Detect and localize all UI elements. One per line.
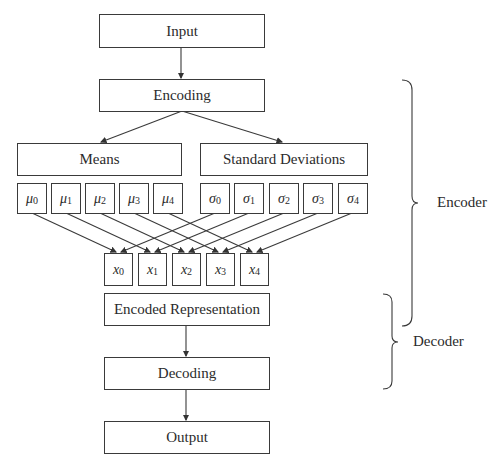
arrow-encoding-std: [182, 111, 282, 142]
arrow-mu0-x0: [32, 213, 116, 252]
std-devs-box: Standard Deviations: [200, 143, 368, 176]
arrow-mu2-x2: [100, 213, 184, 252]
arrow-encoding-means: [101, 111, 182, 142]
sigma-2-box: σ2: [269, 183, 299, 214]
means-label: Means: [80, 151, 120, 168]
x-1-box: x1: [138, 253, 167, 286]
sigma-3-box: σ3: [303, 183, 333, 214]
mu-0-box: μ0: [17, 183, 47, 214]
encoded-representation-box: Encoded Representation: [104, 293, 270, 326]
sigma-4-box: σ4: [338, 183, 368, 214]
decoder-group-label: Decoder: [413, 333, 464, 350]
output-box: Output: [104, 421, 270, 454]
arrow-mu3-x3: [134, 213, 218, 252]
mu-3-box: μ3: [119, 183, 149, 214]
input-label: Input: [166, 23, 198, 40]
mu-2-box: μ2: [85, 183, 115, 214]
x-2-box: x2: [172, 253, 201, 286]
encoder-group-label: Encoder: [437, 194, 487, 211]
diagram-edges: [0, 0, 501, 467]
x-3-box: x3: [206, 253, 235, 286]
x-0-box: x0: [104, 253, 133, 286]
sigma-0-box: σ0: [200, 183, 230, 214]
encoding-box: Encoding: [99, 79, 265, 112]
means-box: Means: [17, 143, 182, 176]
encoder-brace: [402, 80, 418, 326]
x-4-box: x4: [240, 253, 269, 286]
input-box: Input: [99, 14, 265, 48]
decoder-brace: [383, 294, 398, 389]
decoding-box: Decoding: [104, 357, 270, 390]
sigma-1-box: σ1: [234, 183, 264, 214]
encoding-label: Encoding: [153, 87, 211, 104]
encoded-representation-label: Encoded Representation: [114, 301, 260, 318]
decoding-label: Decoding: [158, 365, 216, 382]
output-label: Output: [166, 429, 208, 446]
mu-4-box: μ4: [153, 183, 183, 214]
mu-1-box: μ1: [51, 183, 81, 214]
std-devs-label: Standard Deviations: [223, 151, 345, 168]
arrow-mu1-x1: [66, 213, 150, 252]
arrow-mu4-x4: [168, 213, 252, 252]
